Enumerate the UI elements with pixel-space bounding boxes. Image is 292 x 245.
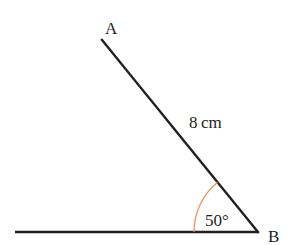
diagram-canvas: A B 8 cm 50° [0,0,292,245]
angle-diagram: A B 8 cm 50° [0,0,292,245]
point-b-label: B [268,227,279,245]
length-label: 8 cm [189,113,222,132]
segment-ab [102,40,258,232]
point-a-label: A [105,19,118,38]
angle-label: 50° [205,211,229,230]
